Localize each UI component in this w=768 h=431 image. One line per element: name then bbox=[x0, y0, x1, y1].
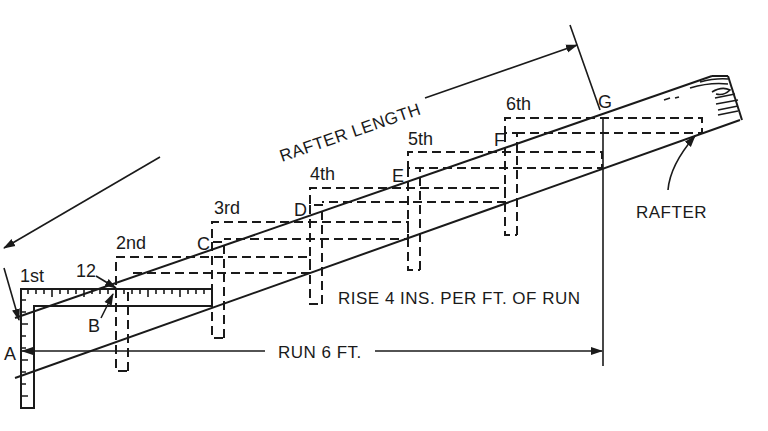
wood-grain-icon bbox=[664, 79, 738, 115]
step-2-label: 2nd bbox=[116, 233, 146, 253]
step-1-label: 1st bbox=[20, 266, 44, 286]
step-5-label: 5th bbox=[408, 129, 433, 149]
point-a-label: A bbox=[4, 344, 16, 364]
rise-label: RISE 4 INS. PER FT. OF RUN bbox=[338, 289, 581, 308]
twelve-mark-label: 12 bbox=[76, 261, 96, 281]
step-3-label: 3rd bbox=[214, 198, 240, 218]
point-g-label: G bbox=[598, 92, 612, 112]
step-4-label: 4th bbox=[310, 164, 335, 184]
point-c-label: C bbox=[197, 234, 210, 254]
run-label: RUN 6 FT. bbox=[278, 343, 362, 362]
point-d-label: D bbox=[294, 200, 307, 220]
rafter-layout-diagram: RAFTER LENGTH RUN 6 FT. RISE 4 INS. PER … bbox=[0, 0, 768, 431]
rafter-callout: RAFTER bbox=[636, 136, 707, 222]
point-e-label: E bbox=[392, 166, 404, 186]
step-6-label: 6th bbox=[506, 94, 531, 114]
point-b-label: B bbox=[88, 316, 100, 336]
rafter-length-label: RAFTER LENGTH bbox=[277, 100, 423, 166]
rafter-label: RAFTER bbox=[636, 203, 707, 222]
point-f-label: F bbox=[494, 130, 505, 150]
